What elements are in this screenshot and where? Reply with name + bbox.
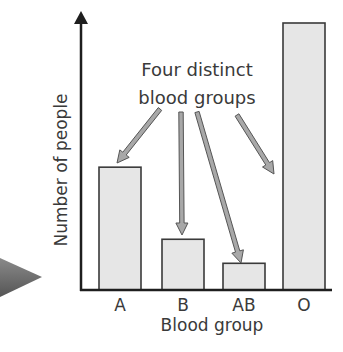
arrow-icon [176, 112, 188, 235]
bar-b [162, 239, 204, 290]
x-tick-labels: ABABO [114, 295, 311, 315]
bar-o [283, 23, 325, 290]
x-tick-label: O [297, 295, 310, 315]
side-pointer-icon [0, 258, 42, 297]
arrow-icon [117, 108, 162, 163]
annotation-line-2: blood groups [138, 87, 255, 108]
y-axis-title: Number of people [51, 93, 71, 246]
blood-group-bar-chart: ABABO Blood group Number of people Four … [0, 0, 343, 352]
annotation-line-1: Four distinct [141, 59, 252, 80]
y-axis-arrow-icon [74, 11, 88, 24]
bar-ab [223, 263, 265, 290]
x-tick-label: A [114, 295, 126, 315]
arrow-icon [235, 114, 274, 174]
x-axis-title: Blood group [161, 315, 264, 335]
bar-a [99, 167, 141, 290]
x-tick-label: AB [232, 295, 255, 315]
x-tick-label: B [177, 295, 189, 315]
